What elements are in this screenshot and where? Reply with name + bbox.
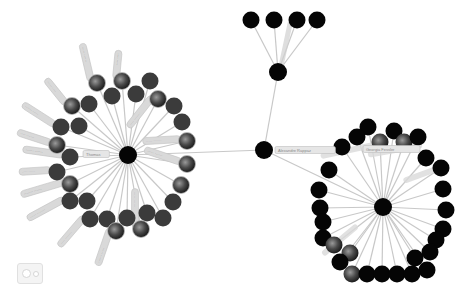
- photo-node[interactable]: [108, 223, 125, 240]
- svg-text:····· ······: ····· ······: [146, 138, 162, 144]
- node-label: ····· ······: [144, 146, 183, 165]
- person-node[interactable]: [433, 160, 450, 177]
- photo-node[interactable]: [49, 137, 66, 154]
- toggle-view-icon: [22, 269, 31, 278]
- person-node[interactable]: [312, 200, 329, 217]
- hub-edge: [264, 72, 278, 150]
- right-edge: [320, 207, 383, 208]
- photo-node[interactable]: [173, 177, 190, 194]
- person-node[interactable]: [321, 162, 338, 179]
- person-node[interactable]: [142, 73, 159, 90]
- person-node[interactable]: [334, 139, 351, 156]
- person-node[interactable]: [332, 254, 349, 271]
- upper-node[interactable]: [269, 63, 287, 81]
- connector-node-label: Alexandre Rappaz: [275, 147, 335, 154]
- photo-node[interactable]: [64, 98, 81, 115]
- left-edge: [107, 155, 128, 219]
- left-edge: [127, 155, 128, 218]
- person-node[interactable]: [128, 86, 145, 103]
- right-edge: [382, 207, 383, 274]
- person-node[interactable]: [79, 193, 96, 210]
- photo-node[interactable]: [326, 237, 343, 254]
- person-node[interactable]: [410, 129, 427, 146]
- person-node[interactable]: [422, 244, 439, 261]
- node-label: ······· ······: [20, 179, 65, 198]
- person-node[interactable]: [62, 149, 79, 166]
- toggle-view-icon-small: [33, 271, 39, 277]
- photo-node[interactable]: [114, 73, 131, 90]
- person-node[interactable]: [82, 211, 99, 228]
- network-graph[interactable]: ···· ········· ·········· ············ ·…: [0, 0, 455, 294]
- top-node[interactable]: [309, 12, 326, 29]
- photo-node[interactable]: [89, 75, 106, 92]
- svg-text:Georgia Fessler: Georgia Fessler: [366, 147, 395, 152]
- top-node[interactable]: [289, 12, 306, 29]
- svg-text:···· ·····: ···· ·····: [22, 168, 35, 174]
- person-node[interactable]: [71, 118, 88, 135]
- person-node[interactable]: [359, 266, 376, 283]
- photo-node[interactable]: [179, 133, 196, 150]
- right-edge: [383, 189, 443, 207]
- right-edge: [329, 170, 383, 207]
- svg-text:Alexandre Rappaz: Alexandre Rappaz: [278, 148, 311, 153]
- node-label: ···· ······: [16, 129, 52, 147]
- toggle-view-button[interactable]: [17, 263, 43, 284]
- person-node[interactable]: [62, 193, 79, 210]
- photo-node[interactable]: [62, 176, 79, 193]
- node-label: ······ ·····: [21, 101, 57, 128]
- svg-text:····· ······: ····· ······: [133, 192, 138, 208]
- right-hub-node[interactable]: [374, 198, 392, 216]
- person-node[interactable]: [311, 182, 328, 199]
- person-node[interactable]: [155, 210, 172, 227]
- left-hub-label: Thomas: [83, 151, 109, 158]
- node-label: ···· ·····: [19, 167, 51, 176]
- person-node[interactable]: [49, 164, 66, 181]
- photo-node[interactable]: [133, 221, 150, 238]
- photo-node[interactable]: [179, 156, 196, 173]
- person-node[interactable]: [407, 250, 424, 267]
- person-node[interactable]: [53, 119, 70, 136]
- top-node[interactable]: [266, 12, 283, 29]
- person-node[interactable]: [165, 194, 182, 211]
- person-node[interactable]: [389, 266, 406, 283]
- photo-node[interactable]: [344, 266, 361, 283]
- node-label: [403, 166, 438, 184]
- photo-node[interactable]: [150, 91, 167, 108]
- left-hub-node[interactable]: [119, 146, 137, 164]
- right-edge: [323, 207, 383, 238]
- person-node[interactable]: [374, 266, 391, 283]
- person-node[interactable]: [315, 214, 332, 231]
- person-node[interactable]: [166, 98, 183, 115]
- person-node[interactable]: [139, 205, 156, 222]
- right-hub-label: Georgia Fessler: [363, 146, 420, 153]
- right-edge: [383, 207, 412, 274]
- person-node[interactable]: [404, 266, 421, 283]
- person-node[interactable]: [81, 96, 98, 113]
- person-node[interactable]: [349, 129, 366, 146]
- right-edge: [383, 207, 446, 210]
- svg-text:Thomas: Thomas: [86, 152, 100, 157]
- person-node[interactable]: [419, 262, 436, 279]
- person-node[interactable]: [435, 181, 452, 198]
- person-node[interactable]: [104, 88, 121, 105]
- top-node[interactable]: [243, 12, 260, 29]
- connector-node[interactable]: [255, 141, 273, 159]
- person-node[interactable]: [174, 114, 191, 131]
- node-label: ····· ·······: [26, 196, 66, 222]
- person-node[interactable]: [438, 202, 455, 219]
